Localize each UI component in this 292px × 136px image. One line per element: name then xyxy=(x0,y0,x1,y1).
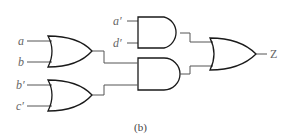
figure-caption: (b) xyxy=(134,121,147,134)
or-gate-3 xyxy=(210,38,256,70)
wire-or2-to-and2 xyxy=(92,85,138,95)
output-label-z: Z xyxy=(270,47,277,61)
or-gate-2 xyxy=(48,80,92,111)
wire-or1-to-and2 xyxy=(92,51,138,63)
wire-and2-to-or3 xyxy=(180,66,213,74)
input-label-b-prime: b′ xyxy=(16,78,25,92)
input-label-a-prime: a′ xyxy=(113,14,122,28)
and-gate-1 xyxy=(138,17,176,48)
and-gate-2 xyxy=(138,58,180,90)
input-label-d-prime: d′ xyxy=(113,36,122,50)
wire-and1-to-or3 xyxy=(180,33,213,42)
input-label-c-prime: c′ xyxy=(16,99,24,113)
logic-circuit-diagram: a b b′ c′ a′ d′ Z (b) xyxy=(0,0,292,136)
input-label-a: a xyxy=(18,34,24,48)
input-label-b: b xyxy=(18,55,24,69)
or-gate-1 xyxy=(48,36,92,67)
